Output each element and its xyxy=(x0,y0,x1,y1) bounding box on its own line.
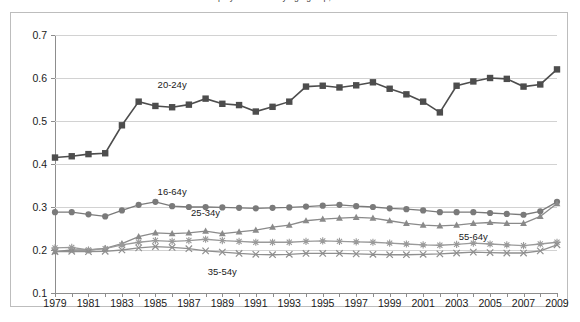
y-tick-label: 0.2 xyxy=(32,244,47,256)
x-tick-label: 2001 xyxy=(411,297,434,309)
x-tick-label: 1997 xyxy=(345,297,368,309)
x-tick-label: 2003 xyxy=(445,297,468,309)
x-tick-label: 1981 xyxy=(77,297,100,309)
plot-area: 20-24y16-64y25-34y55-64y35-54y xyxy=(55,35,557,293)
annotation-35-54y: 35-54y xyxy=(208,265,237,276)
annotation-16-64y: 16-64y xyxy=(158,185,187,196)
chart-title-clipped: Employment rates by age group, 1979-2009 xyxy=(0,0,580,4)
x-tick-label: 1987 xyxy=(177,297,200,309)
x-tick-label: 1979 xyxy=(43,297,66,309)
x-axis-labels: 1979198119831985198719891991199319951997… xyxy=(55,297,557,313)
chart-frame: 0.70.60.50.40.30.20.1 20-24y16-64y25-34y… xyxy=(10,12,568,307)
series-line xyxy=(55,69,557,157)
x-tick-label: 2005 xyxy=(478,297,501,309)
x-tick-label: 2009 xyxy=(545,297,568,309)
annotation-25-34y: 25-34y xyxy=(191,207,220,218)
y-tick-label: 0.5 xyxy=(32,115,47,127)
x-tick-label: 1999 xyxy=(378,297,401,309)
series-20-24y xyxy=(52,66,560,161)
annotation-55-64y: 55-64y xyxy=(459,231,488,242)
x-tick-label: 1995 xyxy=(311,297,334,309)
chart-page: Employment rates by age group, 1979-2009… xyxy=(0,0,580,322)
chart-title-text: Employment rates by age group, 1979-2009 xyxy=(205,0,375,2)
series-16-64y xyxy=(52,199,560,220)
x-tick-label: 1993 xyxy=(278,297,301,309)
x-tick-label: 1983 xyxy=(110,297,133,309)
annotation-20-24y: 20-24y xyxy=(158,79,187,90)
y-tick-label: 0.7 xyxy=(32,29,47,41)
series-plot xyxy=(55,35,557,293)
x-tick-label: 1989 xyxy=(211,297,234,309)
y-tick-label: 0.3 xyxy=(32,201,47,213)
x-tick-label: 1985 xyxy=(144,297,167,309)
y-axis-labels: 0.70.60.50.40.30.20.1 xyxy=(11,35,51,293)
y-tick-label: 0.6 xyxy=(32,72,47,84)
x-tick-label: 1991 xyxy=(244,297,267,309)
y-tick-label: 0.4 xyxy=(32,158,47,170)
x-tick-label: 2007 xyxy=(512,297,535,309)
